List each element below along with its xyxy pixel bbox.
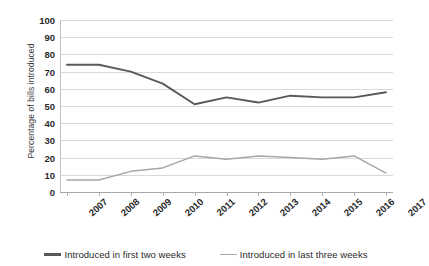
plot-area [60, 20, 393, 192]
y-tick-label-50: 50 [3, 101, 55, 112]
y-tick-label-80: 80 [3, 49, 55, 60]
legend-line-icon-1 [44, 253, 61, 255]
y-tick-label-0: 0 [3, 187, 55, 198]
series-line-2 [67, 156, 386, 180]
legend-label-1: Introduced in first two weeks [64, 249, 185, 260]
x-tick-label-2008: 2008 [118, 196, 141, 218]
x-tick-label-2010: 2010 [182, 196, 205, 218]
chart-title [0, 0, 412, 8]
x-tick-label-2009: 2009 [150, 196, 173, 218]
x-tick-label-2014: 2014 [310, 196, 333, 218]
y-tick-label-10: 10 [3, 169, 55, 180]
legend-item-2[interactable]: Introduced in last three weeks [220, 249, 368, 260]
legend-line-icon-2 [220, 254, 237, 256]
x-tick-label-2013: 2013 [278, 196, 301, 218]
y-tick-label-70: 70 [3, 66, 55, 77]
y-tick-label-90: 90 [3, 32, 55, 43]
x-tick-label-2012: 2012 [246, 196, 269, 218]
legend-item-1[interactable]: Introduced in first two weeks [44, 249, 185, 260]
x-tick-label-2017: 2017 [405, 196, 428, 218]
y-tick-label-60: 60 [3, 83, 55, 94]
y-tick-label-100: 100 [3, 15, 55, 26]
series-line-1 [67, 65, 386, 105]
x-tick-label-2007: 2007 [86, 196, 109, 218]
x-tick-label-2016: 2016 [374, 196, 397, 218]
x-tick-label-2015: 2015 [342, 196, 365, 218]
x-tick-label-2011: 2011 [214, 196, 237, 218]
y-tick-label-30: 30 [3, 135, 55, 146]
y-tick-label-40: 40 [3, 118, 55, 129]
x-axis-tick-labels: 2007200820092010201120122013201420152016… [60, 194, 393, 236]
y-tick-label-20: 20 [3, 152, 55, 163]
y-axis-tick-labels: 1009080706050403020100 [0, 20, 55, 192]
series-lines [60, 20, 393, 192]
chart-legend: Introduced in first two weeksIntroduced … [0, 249, 412, 260]
legend-label-2: Introduced in last three weeks [240, 249, 368, 260]
